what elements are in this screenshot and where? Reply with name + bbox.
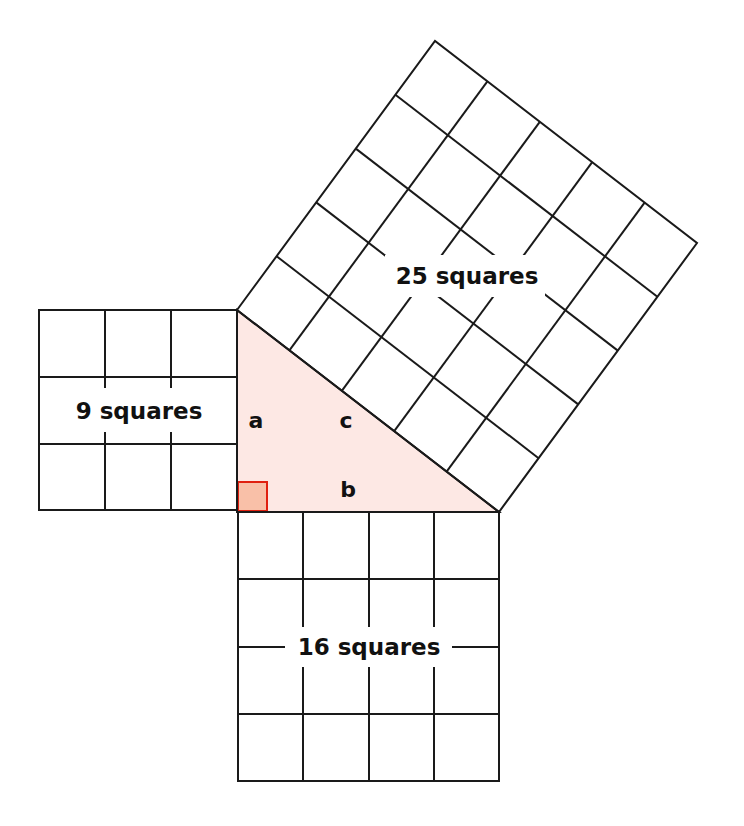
right-angle-marker xyxy=(238,482,267,511)
pythagorean-diagram: 9 squares 16 squares 25 squares a c b xyxy=(0,0,744,826)
side-c-label: c xyxy=(339,408,352,433)
side-a-label: a xyxy=(249,408,264,433)
square-a-label: 9 squares xyxy=(76,398,203,424)
side-b-label: b xyxy=(340,477,356,502)
square-c-label: 25 squares xyxy=(396,263,539,289)
square-b-label: 16 squares xyxy=(298,634,441,660)
